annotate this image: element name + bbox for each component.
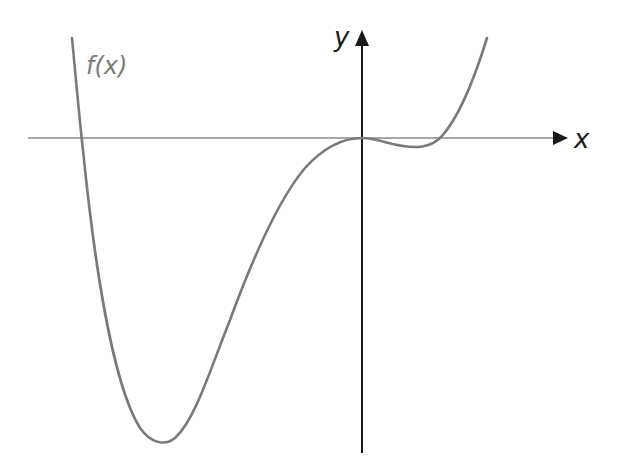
function-curve (72, 38, 487, 443)
x-axis-label: x (573, 124, 590, 154)
function-label: f(x) (86, 52, 127, 80)
function-graph: f(x) y x (0, 0, 622, 471)
y-axis-label: y (333, 22, 350, 52)
x-axis-arrow-icon (553, 131, 568, 145)
y-axis-arrow-icon (355, 30, 369, 46)
